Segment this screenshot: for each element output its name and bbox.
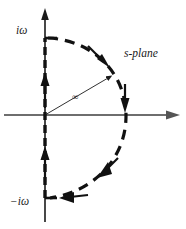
contour-imaginary-segment [41,38,58,198]
radius-label-infinity: ∞ [72,93,78,102]
arrow-up-icon [41,146,50,160]
arrow-down-icon [121,98,130,113]
arc-direction-arrow-bottom-right [97,158,118,178]
contour-infinite-arc [48,38,130,203]
real-axis [4,111,180,120]
arrow-up-icon [41,72,50,86]
contour-arc-dashed-path [48,38,126,198]
contour-direction-arrow-up-lower [41,146,50,182]
contour-direction-arrow-up-upper [41,72,50,108]
arc-direction-arrow-top [88,46,110,68]
axis-label-negative-imaginary: −iω [10,196,29,208]
imaginary-axis-arrowhead-icon [41,8,49,20]
plane-label-s-plane: s-plane [124,48,158,60]
real-axis-arrowhead-icon [166,111,180,120]
s-plane-nyquist-contour-figure: iω −iω s-plane ∞ [0,0,186,229]
axis-label-positive-imaginary: iω [16,25,27,37]
